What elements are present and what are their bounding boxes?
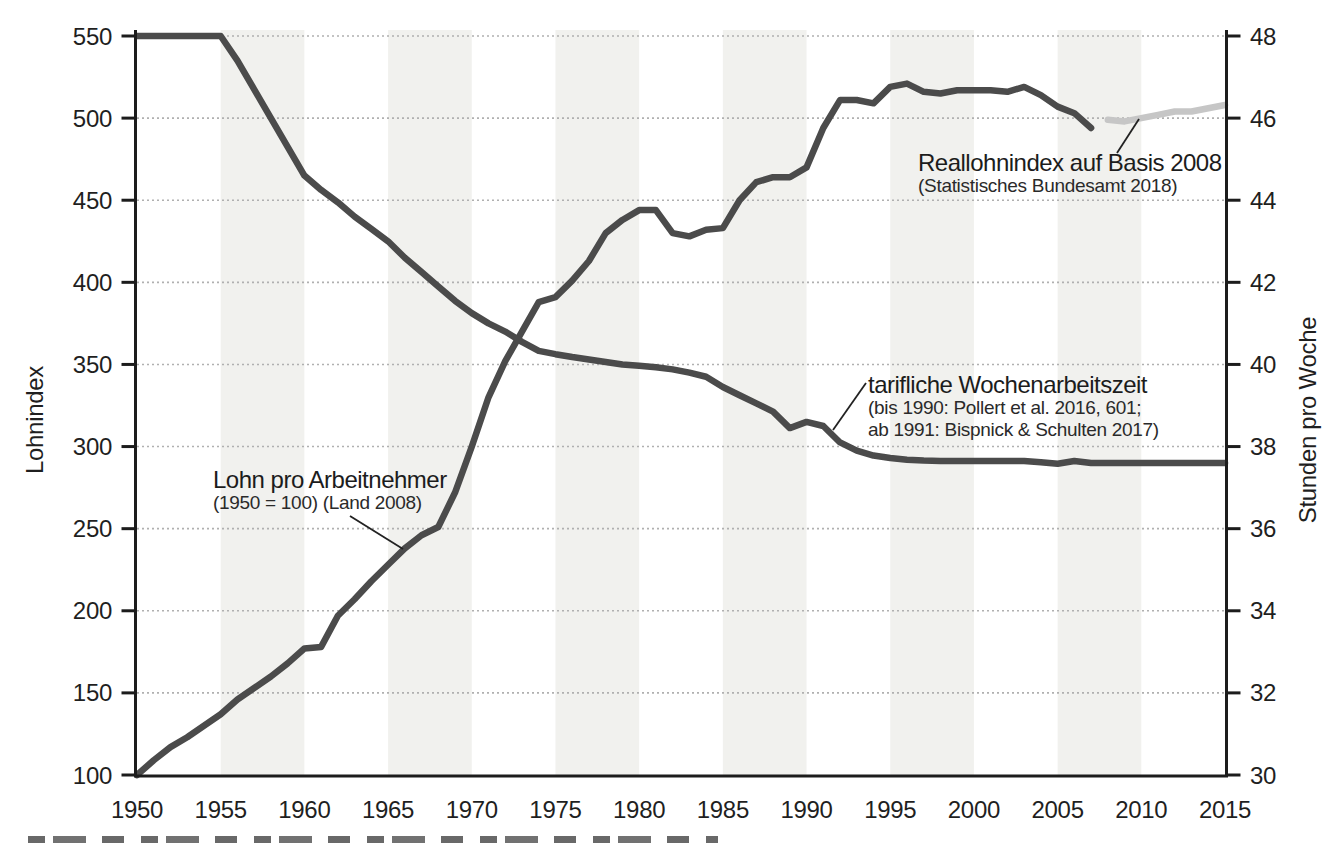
right-axis-tick-label: 44 xyxy=(1250,187,1276,214)
plot-band xyxy=(723,30,807,775)
x-axis-tick-label: 1975 xyxy=(529,796,581,823)
left-axis-tick-label: 400 xyxy=(73,269,112,296)
right-axis-tick-label: 34 xyxy=(1250,597,1276,624)
right-axis-tick-label: 30 xyxy=(1250,762,1276,789)
annotation-title: tarifliche Wochenarbeitszeit xyxy=(868,372,1159,397)
x-axis-tick-label: 1950 xyxy=(111,796,163,823)
left-axis-tick-label: 250 xyxy=(73,515,112,542)
right-axis-tick-label: 40 xyxy=(1250,351,1276,378)
cropped-caption-fragment xyxy=(28,836,718,843)
right-axis-tick-label: 36 xyxy=(1250,515,1276,542)
left-axis-tick-label: 200 xyxy=(73,597,112,624)
plot-band xyxy=(388,30,472,775)
left-axis-tick-label: 550 xyxy=(73,23,112,50)
left-axis-tick-label: 150 xyxy=(73,679,112,706)
annotation-pointer-hours xyxy=(833,383,866,430)
right-axis-tick-label: 38 xyxy=(1250,433,1276,460)
x-axis-tick-label: 1990 xyxy=(780,796,832,823)
annotation-subtitle: (bis 1990: Pollert et al. 2016, 601; xyxy=(868,397,1159,419)
x-axis-tick-label: 1970 xyxy=(446,796,498,823)
chart-figure: 1001502002503003504004505005503032343638… xyxy=(0,0,1327,844)
x-axis-tick-label: 2015 xyxy=(1199,796,1251,823)
left-axis-tick-label: 100 xyxy=(73,762,112,789)
left-axis-tick-label: 350 xyxy=(73,351,112,378)
right-axis-tick-label: 32 xyxy=(1250,679,1276,706)
annotation-subtitle: ab 1991: Bispnick & Schulten 2017) xyxy=(868,419,1159,441)
x-axis-tick-label: 1985 xyxy=(697,796,749,823)
annotation-title: Lohn pro Arbeitnehmer xyxy=(213,467,447,492)
left-axis-tick-label: 300 xyxy=(73,433,112,460)
left-axis-tick-label: 450 xyxy=(73,187,112,214)
left-axis-title: Lohnindex xyxy=(21,310,47,530)
x-axis-tick-label: 1965 xyxy=(362,796,414,823)
x-axis-tick-label: 2000 xyxy=(948,796,1000,823)
x-axis-tick-label: 2005 xyxy=(1032,796,1084,823)
left-axis-tick-label: 500 xyxy=(73,105,112,132)
annotation-tarifliche-wochenarbeitszeit: tarifliche Wochenarbeitszeit (bis 1990: … xyxy=(868,372,1159,441)
annotation-subtitle: (1950 = 100) (Land 2008) xyxy=(213,492,447,514)
x-axis-tick-label: 1980 xyxy=(613,796,665,823)
right-axis-tick-label: 46 xyxy=(1250,105,1276,132)
x-axis-tick-label: 1955 xyxy=(195,796,247,823)
right-axis-tick-label: 48 xyxy=(1250,23,1276,50)
plot-band xyxy=(555,30,639,775)
x-axis-tick-label: 1960 xyxy=(278,796,330,823)
annotation-title: Reallohnindex auf Basis 2008 xyxy=(918,150,1222,175)
annotation-reallohnindex: Reallohnindex auf Basis 2008 (Statistisc… xyxy=(918,150,1222,197)
x-axis-tick-label: 2010 xyxy=(1115,796,1167,823)
annotation-subtitle: (Statistisches Bundesamt 2018) xyxy=(918,175,1222,197)
x-axis-tick-label: 1995 xyxy=(864,796,916,823)
right-axis-tick-label: 42 xyxy=(1250,269,1276,296)
right-axis-title: Stunden pro Woche xyxy=(1294,310,1320,530)
annotation-lohn-pro-arbeitnehmer: Lohn pro Arbeitnehmer (1950 = 100) (Land… xyxy=(213,467,447,514)
